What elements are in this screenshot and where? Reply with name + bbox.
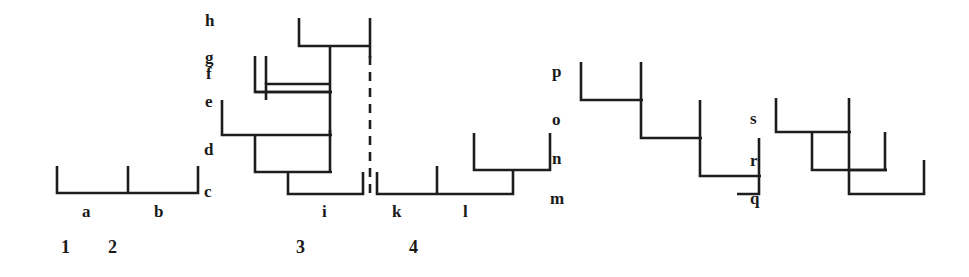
node-label-o: o bbox=[552, 111, 561, 128]
group-label-1: 1 bbox=[61, 238, 70, 256]
node-label-q: q bbox=[750, 190, 759, 207]
node-label-f: f bbox=[206, 65, 212, 82]
group-label-4: 4 bbox=[409, 238, 418, 256]
node-label-c: c bbox=[204, 183, 212, 200]
cladogram-svg bbox=[0, 0, 969, 277]
figure-canvas: h g f e d c a b i k l m n o p q r s 1 2 … bbox=[0, 0, 969, 277]
node-label-n: n bbox=[552, 150, 561, 167]
tip-label-i: i bbox=[322, 203, 327, 220]
tree-4-strokes bbox=[581, 62, 761, 194]
tree-1-strokes bbox=[57, 166, 198, 193]
node-label-m: m bbox=[550, 190, 564, 207]
tip-label-l: l bbox=[463, 203, 468, 220]
group-label-3: 3 bbox=[296, 238, 305, 256]
node-label-s: s bbox=[750, 110, 757, 127]
node-label-h: h bbox=[205, 12, 214, 29]
tree-3-strokes bbox=[377, 133, 550, 194]
node-label-p: p bbox=[552, 63, 561, 80]
node-label-d: d bbox=[204, 141, 213, 158]
tree-5-strokes bbox=[776, 98, 924, 194]
tip-label-b: b bbox=[154, 203, 163, 220]
node-label-r: r bbox=[750, 152, 758, 169]
group-label-2: 2 bbox=[108, 238, 117, 256]
tip-label-k: k bbox=[392, 203, 401, 220]
tree-2-strokes bbox=[222, 18, 371, 196]
tip-label-a: a bbox=[82, 203, 91, 220]
node-label-e: e bbox=[205, 93, 213, 110]
